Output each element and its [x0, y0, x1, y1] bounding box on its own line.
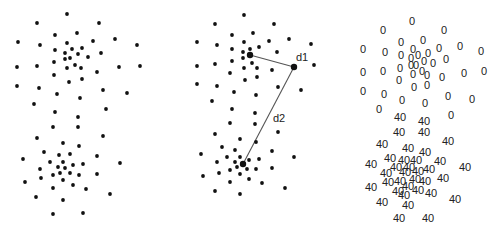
data-point: [77, 144, 81, 148]
data-point: [254, 93, 258, 97]
data-point: [195, 82, 199, 86]
data-point: [247, 158, 251, 162]
data-point: [135, 43, 139, 47]
cluster-label: 0: [457, 40, 463, 52]
data-point: [240, 161, 246, 167]
cluster-label: 0: [424, 79, 430, 91]
data-point: [291, 64, 297, 70]
data-point: [241, 56, 245, 60]
data-point: [76, 52, 80, 56]
data-point: [238, 155, 242, 159]
data-point: [38, 167, 42, 171]
data-point: [232, 90, 236, 94]
cluster-labels-panel: 0000000000000000000000000000000000000000…: [360, 15, 487, 224]
data-point: [118, 161, 122, 165]
data-point: [32, 102, 36, 106]
data-point: [80, 77, 84, 81]
cluster-label: 0: [443, 53, 449, 65]
data-point: [254, 167, 258, 171]
data-point: [238, 137, 242, 141]
highlighted-points: [240, 52, 297, 167]
data-point: [51, 125, 55, 129]
data-point: [68, 171, 72, 175]
cluster-label: 0: [397, 62, 403, 74]
data-point: [242, 66, 246, 70]
data-point: [225, 155, 229, 159]
distance-label-d2: d2: [273, 112, 285, 124]
data-point: [61, 198, 65, 202]
data-point: [228, 121, 232, 125]
data-point: [63, 166, 67, 170]
cluster-label: 0: [380, 24, 386, 36]
cluster-label: 0: [469, 93, 475, 105]
data-point: [228, 168, 232, 172]
data-point: [230, 33, 234, 37]
cluster-label: 40: [423, 163, 435, 175]
data-point: [238, 192, 242, 196]
cluster-label: 40: [365, 158, 377, 170]
data-point: [95, 70, 99, 74]
cluster-label: 0: [376, 103, 382, 115]
data-point: [53, 33, 57, 37]
data-point: [38, 43, 42, 47]
data-point: [241, 50, 245, 54]
data-point: [35, 136, 39, 140]
distance-edges: [243, 55, 294, 164]
cluster-label: 0: [445, 90, 451, 102]
data-point: [228, 180, 232, 184]
cluster-label: 0: [411, 81, 417, 93]
data-point: [220, 145, 224, 149]
data-point: [65, 12, 69, 16]
data-point: [97, 21, 101, 25]
cluster-label: 40: [376, 196, 388, 208]
cluster-label: 0: [382, 46, 388, 58]
data-point: [250, 61, 254, 65]
cluster-label: 0: [461, 67, 467, 79]
data-point: [67, 80, 71, 84]
data-point: [16, 40, 20, 44]
distance-points: [195, 13, 316, 196]
data-point: [292, 155, 296, 159]
data-point: [215, 43, 219, 47]
data-point: [95, 154, 99, 158]
data-point: [299, 88, 303, 92]
data-point: [270, 166, 274, 170]
data-point: [51, 173, 55, 177]
data-point: [253, 122, 257, 126]
cluster-label: 40: [459, 161, 471, 173]
data-point: [48, 160, 52, 164]
data-point: [15, 84, 19, 88]
data-point: [210, 99, 214, 103]
data-point: [283, 186, 287, 190]
cluster-label: 0: [422, 97, 428, 109]
data-point: [243, 78, 247, 82]
data-point: [215, 84, 219, 88]
cluster-label: 40: [418, 126, 430, 138]
data-point: [68, 152, 72, 156]
cluster-label: 40: [393, 212, 405, 224]
cluster-label: 0: [409, 15, 415, 27]
data-point: [58, 171, 62, 175]
data-point: [245, 167, 249, 171]
distance-illustration-panel: d1d2: [195, 13, 316, 196]
cluster-label: 40: [376, 138, 388, 150]
cluster-label: 40: [394, 111, 406, 123]
cluster-label: 0: [360, 85, 366, 97]
data-point: [101, 134, 105, 138]
data-point: [238, 172, 242, 176]
cluster-label: 40: [402, 142, 414, 154]
distance-edge-d1: [250, 55, 294, 67]
data-point: [242, 13, 246, 17]
data-point: [253, 111, 257, 115]
data-point: [228, 71, 232, 75]
cluster-label: 0: [420, 34, 426, 46]
data-point: [84, 187, 88, 191]
data-point: [213, 22, 217, 26]
cluster-label: 0: [441, 24, 447, 36]
cluster-label: 0: [448, 109, 454, 121]
data-point: [52, 60, 56, 64]
data-point: [61, 160, 65, 164]
data-point: [61, 178, 65, 182]
data-point: [61, 141, 65, 145]
data-point: [275, 50, 279, 54]
